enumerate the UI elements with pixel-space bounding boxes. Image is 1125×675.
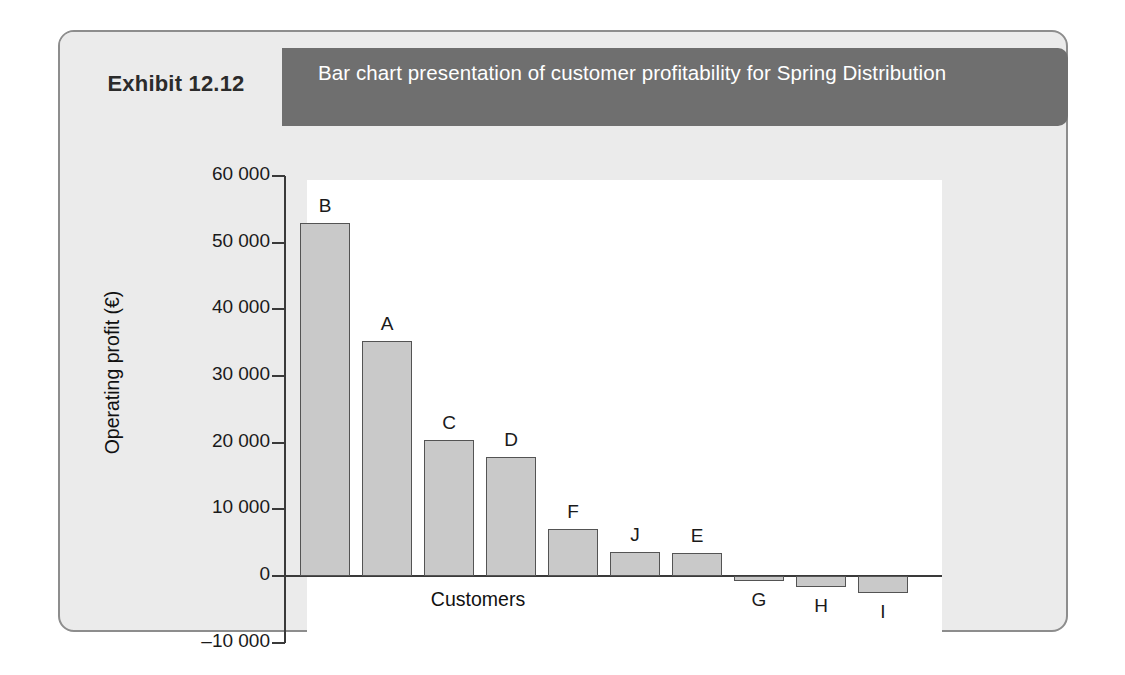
bar-label-g: G — [728, 589, 790, 611]
exhibit-card: Bar chart presentation of customer profi… — [58, 30, 1068, 632]
bar-f — [548, 529, 598, 576]
bar-label-a: A — [356, 313, 418, 335]
bar-i — [858, 576, 908, 593]
y-axis-tick-label: 40 000 — [120, 296, 270, 318]
chart-figure: 60 00050 00040 00030 00020 00010 0000–10… — [60, 126, 1066, 630]
bar-d — [486, 457, 536, 576]
bar-label-f: F — [542, 501, 604, 523]
exhibit-title: Bar chart presentation of customer profi… — [318, 59, 978, 87]
bar-label-i: I — [852, 601, 914, 623]
bar-label-b: B — [294, 195, 356, 217]
bar-label-d: D — [480, 429, 542, 451]
y-axis-tick-label: 0 — [120, 563, 270, 585]
bar-c — [424, 440, 474, 576]
bar-e — [672, 553, 722, 576]
bar-label-h: H — [790, 595, 852, 617]
bars-layer: BACDFJEGHI — [284, 126, 944, 646]
exhibit-number-label: Exhibit 12.12 — [76, 71, 276, 97]
bar-j — [610, 552, 660, 576]
y-axis-tick-label: 50 000 — [120, 230, 270, 252]
bar-label-j: J — [604, 524, 666, 546]
y-axis-tick-label: 10 000 — [120, 496, 270, 518]
bar-h — [796, 576, 846, 587]
bar-g — [734, 576, 784, 581]
bar-label-e: E — [666, 525, 728, 547]
exhibit-header-band: Bar chart presentation of customer profi… — [276, 48, 1068, 126]
bar-b — [300, 223, 350, 576]
y-axis-tick-label: 30 000 — [120, 363, 270, 385]
y-axis-tick-label: –10 000 — [120, 630, 270, 652]
bar-label-c: C — [418, 412, 480, 434]
bar-a — [362, 341, 412, 576]
y-axis-title: Operating profit (€) — [101, 243, 124, 503]
y-axis-tick-label: 60 000 — [120, 163, 270, 185]
y-axis-tick-label: 20 000 — [120, 430, 270, 452]
y-axis-tick-labels: 60 00050 00040 00030 00020 00010 0000–10… — [110, 126, 270, 646]
